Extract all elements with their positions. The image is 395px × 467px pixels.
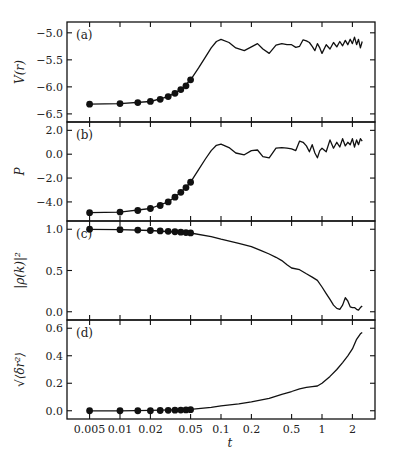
data-curve	[90, 332, 363, 410]
x-tick-label: 2	[349, 423, 356, 436]
y-tick-label: 0.0	[46, 148, 64, 161]
data-marker	[147, 98, 154, 105]
data-marker	[157, 96, 164, 103]
panel-label: (a)	[76, 28, 93, 42]
data-marker	[157, 228, 164, 235]
y-tick-label: −6.5	[36, 108, 63, 121]
y-tick-label: 0.5	[46, 265, 64, 278]
y-axis-label: P	[13, 167, 27, 177]
x-tick-label: 0.2	[243, 423, 261, 436]
y-tick-label: −5.5	[36, 54, 63, 67]
y-tick-label: 0.0	[46, 405, 64, 418]
data-marker	[134, 407, 141, 414]
data-marker	[86, 226, 93, 233]
panel-b: 2.00.0−2.0−4.0(b)P	[13, 122, 375, 221]
data-marker	[134, 99, 141, 106]
data-marker	[117, 100, 124, 107]
x-tick-label: 0.05	[178, 423, 203, 436]
x-tick-label: 0.5	[283, 423, 301, 436]
panel-d: 0.60.40.20.0(d)√⟨δr²⟩	[13, 320, 375, 419]
y-tick-label: −2.0	[36, 172, 63, 185]
panel-a: −5.0−5.5−6.0−6.5(a)V(r)	[13, 22, 375, 122]
data-marker	[187, 179, 194, 186]
y-tick-label: −6.0	[36, 81, 63, 94]
plot-frame	[67, 22, 375, 122]
data-marker	[165, 93, 172, 100]
data-marker	[165, 199, 172, 206]
plot-frame	[67, 122, 375, 221]
data-marker	[177, 189, 184, 196]
y-tick-label: 1.0	[46, 223, 64, 236]
figure: −5.0−5.5−6.0−6.5(a)V(r)2.00.0−2.0−4.0(b)…	[0, 0, 395, 467]
data-curve	[90, 37, 363, 104]
y-axis-label: √⟨δr²⟩	[13, 352, 27, 387]
data-marker	[187, 406, 194, 413]
y-axis-label: |ρ(k)|²	[13, 252, 27, 289]
data-marker	[86, 101, 93, 108]
panel-label: (b)	[76, 128, 93, 142]
data-marker	[134, 227, 141, 234]
plot-frame	[67, 320, 375, 419]
data-marker	[117, 209, 124, 216]
data-marker	[172, 194, 179, 201]
y-axis-label: V(r)	[13, 60, 27, 84]
plot-frame	[67, 221, 375, 320]
data-marker	[86, 407, 93, 414]
data-marker	[165, 228, 172, 235]
panel-label: (d)	[76, 326, 93, 340]
data-marker	[187, 230, 194, 237]
data-marker	[172, 407, 179, 414]
y-tick-label: 0.4	[46, 350, 64, 363]
x-axis-label: t	[228, 436, 233, 450]
panel-c: 1.00.50.0(c)|ρ(k)|²	[13, 221, 375, 320]
data-marker	[172, 228, 179, 235]
data-marker	[183, 184, 190, 191]
y-tick-label: 0.2	[46, 377, 64, 390]
data-curve	[90, 229, 363, 310]
data-marker	[183, 82, 190, 89]
data-marker	[117, 226, 124, 233]
data-marker	[117, 407, 124, 414]
x-tick-label: 0.02	[138, 423, 163, 436]
y-tick-label: 2.0	[46, 124, 64, 137]
data-marker	[157, 202, 164, 209]
x-tick-label: 0.1	[212, 423, 230, 436]
x-tick-label: 0.01	[108, 423, 133, 436]
y-tick-label: −5.0	[36, 27, 63, 40]
data-marker	[157, 407, 164, 414]
data-marker	[147, 205, 154, 212]
x-tick-label: 0.005	[74, 423, 106, 436]
y-tick-label: 0.0	[46, 306, 64, 319]
data-marker	[172, 90, 179, 97]
x-tick-label: 1	[319, 423, 326, 436]
data-marker	[187, 76, 194, 83]
data-marker	[134, 207, 141, 214]
data-curve	[90, 139, 363, 213]
data-marker	[165, 407, 172, 414]
data-marker	[86, 209, 93, 216]
data-marker	[147, 407, 154, 414]
data-marker	[147, 227, 154, 234]
y-tick-label: −4.0	[36, 196, 63, 209]
y-tick-label: 0.6	[46, 322, 64, 335]
